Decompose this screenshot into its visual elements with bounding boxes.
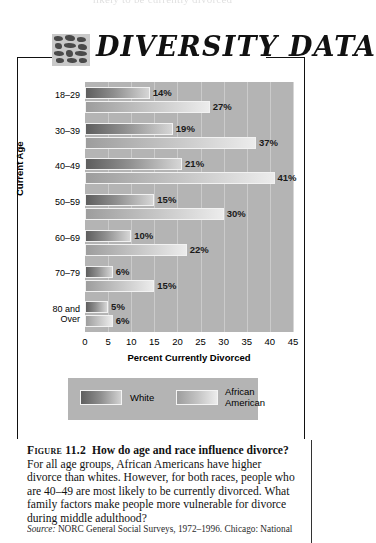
chart-legend: White African American (68, 378, 258, 420)
bar-african-american: 15% (85, 280, 154, 292)
page-right-rule (311, 440, 312, 543)
bar-african-american: 37% (85, 137, 256, 149)
x-axis-tick-label: 30 (218, 336, 229, 347)
bar-african-american: 6% (85, 315, 113, 327)
bar-value-label: 5% (111, 301, 125, 312)
y-axis-tick-label: 18–29 (55, 90, 80, 100)
bar-african-american: 41% (85, 172, 275, 184)
y-axis-title: Current Age (14, 141, 25, 196)
x-axis-tick-label: 35 (241, 336, 252, 347)
x-axis-tick-label: 45 (288, 336, 299, 347)
bar-value-label: 14% (153, 87, 172, 98)
x-axis-tick-label: 0 (82, 336, 87, 347)
bar-group: 30–3919%37% (85, 118, 293, 154)
x-axis-ticks: 051015202530354045 (85, 336, 293, 348)
y-axis-tick-label: 70–79 (55, 268, 80, 278)
bar-group: 80 andOver5%6% (85, 296, 293, 332)
bar-value-label: 27% (213, 101, 232, 112)
frame-right-rule (304, 57, 305, 439)
figure-number: Figure 11.2 (27, 444, 86, 457)
legend-swatch-african-american (176, 390, 218, 405)
banner-title: DIVERSITY DATA (96, 29, 376, 62)
x-axis-tick-label: 15 (149, 336, 160, 347)
bar-value-label: 15% (157, 194, 176, 205)
y-axis-tick-label: 40–49 (55, 161, 80, 171)
page-bleed-text: likely to be currently divorced (0, 0, 325, 12)
bar-value-label: 30% (227, 208, 246, 219)
bar-white: 15% (85, 194, 154, 206)
bar-white: 5% (85, 301, 108, 313)
bar-white: 6% (85, 266, 113, 278)
caption-body: For all age groups, African Americans ha… (27, 458, 295, 525)
x-axis-title: Percent Currently Divorced (85, 352, 293, 363)
legend-label-african-american: African American (225, 387, 265, 408)
source-label: Source: (27, 524, 56, 534)
bar-value-label: 41% (278, 172, 297, 183)
x-axis-tick-label: 10 (126, 336, 137, 347)
bar-african-american: 27% (85, 101, 210, 113)
bar-white: 14% (85, 87, 150, 99)
x-axis-tick-label: 5 (105, 336, 110, 347)
legend-swatch-white (80, 390, 122, 405)
bar-group: 40–4921%41% (85, 153, 293, 189)
bar-group: 50–5915%30% (85, 189, 293, 225)
figure-source: Source: NORC General Social Surveys, 197… (27, 524, 312, 535)
legend-label-white: White (130, 393, 154, 404)
y-axis-tick-label: 60–69 (55, 233, 80, 243)
bar-african-american: 22% (85, 244, 187, 256)
banner: DIVERSITY DATA (0, 32, 325, 68)
bar-value-label: 22% (190, 244, 209, 255)
x-axis-tick-label: 20 (172, 336, 183, 347)
x-axis-tick-label: 40 (265, 336, 276, 347)
bar-value-label: 37% (259, 137, 278, 148)
bar-group: 70–796%15% (85, 261, 293, 297)
chart: Current Age 18–2914%27%30–3919%37%40–492… (18, 78, 304, 433)
gridline (293, 82, 294, 332)
bar-white: 19% (85, 123, 173, 135)
bar-value-label: 21% (185, 158, 204, 169)
bar-value-label: 6% (116, 266, 130, 277)
bar-value-label: 19% (176, 123, 195, 134)
bar-value-label: 6% (116, 315, 130, 326)
bar-white: 10% (85, 230, 131, 242)
y-axis-tick-label: 50–59 (55, 197, 80, 207)
source-text: NORC General Social Surveys, 1972–1996. … (58, 524, 292, 534)
figure-caption: Figure 11.2 How do age and race influenc… (27, 444, 299, 526)
bar-white: 21% (85, 158, 182, 170)
y-axis-tick-label: 80 andOver (52, 304, 80, 324)
bar-value-label: 15% (157, 280, 176, 291)
bar-value-label: 10% (134, 230, 153, 241)
x-axis-tick-label: 25 (195, 336, 206, 347)
mosaic-icon (52, 34, 90, 66)
bar-group: 18–2914%27% (85, 82, 293, 118)
caption-question: How do age and race influence divorce? (92, 444, 289, 457)
bar-group: 60–6910%22% (85, 225, 293, 261)
y-axis-tick-label: 30–39 (55, 126, 80, 136)
bar-african-american: 30% (85, 208, 224, 220)
